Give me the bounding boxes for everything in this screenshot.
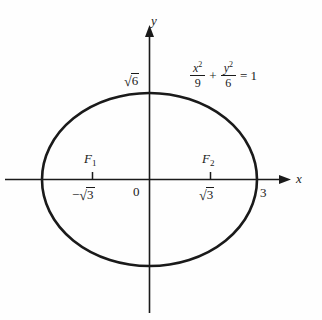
left-focus-subscript: 1: [92, 158, 97, 168]
right-focus-subscript: 2: [210, 158, 215, 168]
sqrt6-radical: √6: [124, 73, 139, 89]
y-axis-label: y: [151, 14, 157, 27]
origin-label: 0: [133, 185, 140, 198]
right-vertex-label: 3: [260, 186, 267, 199]
y-term-numerator: y2: [221, 62, 236, 75]
x-term-fraction: x2 9: [190, 62, 205, 89]
right-focus-letter: F: [202, 151, 210, 166]
y-term-fraction: y2 6: [221, 62, 236, 89]
equals-one: = 1: [239, 68, 258, 84]
left-focus-label: F1: [84, 152, 96, 165]
sqrt3-left-radical: √3: [79, 187, 94, 203]
y-term-denominator: 6: [222, 76, 234, 89]
x-axis-label: x: [296, 172, 302, 185]
diagram-canvas: [0, 0, 322, 320]
x-axis-arrowhead: [279, 175, 291, 184]
top-vertex-label: √6: [124, 72, 139, 89]
ellipse-diagram: y x 0 √6 3 F1 F2 −√3 √3 x2 9 + y2 6 = 1: [0, 0, 322, 320]
left-focus-letter: F: [84, 151, 92, 166]
x-exponent: 2: [198, 60, 202, 69]
ellipse-equation: x2 9 + y2 6 = 1: [190, 62, 258, 89]
right-focus-value: √3: [199, 186, 214, 203]
x-term-numerator: x2: [190, 62, 205, 75]
right-focus-label: F2: [202, 152, 214, 165]
sqrt3-right-radical: √3: [199, 187, 214, 203]
x-term-denominator: 9: [192, 76, 204, 89]
y-exponent: 2: [229, 60, 233, 69]
minus-sign: −: [72, 187, 79, 202]
plus-operator: +: [208, 68, 217, 84]
left-focus-value: −√3: [72, 186, 95, 203]
